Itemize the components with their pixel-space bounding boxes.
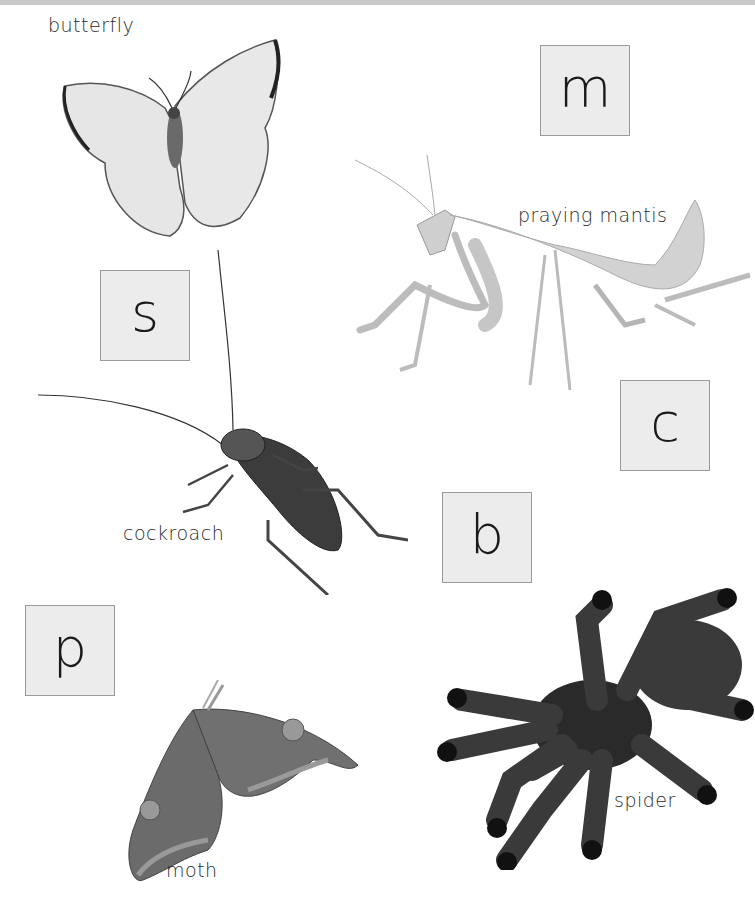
moth-image (108, 680, 363, 890)
top-bar (0, 0, 755, 5)
butterfly-icon (45, 38, 285, 238)
butterfly-label: butterfly (48, 14, 134, 36)
moth-label: moth (166, 859, 218, 881)
letter-c: c (650, 396, 680, 450)
letter-box-c[interactable]: c (620, 380, 710, 471)
letter-m: m (559, 61, 612, 115)
spider-label: spider (614, 789, 676, 811)
letter-p: p (53, 621, 87, 675)
butterfly-image (45, 38, 285, 238)
spider-icon (432, 580, 755, 870)
praying-mantis-label: praying mantis (518, 204, 667, 226)
moth-icon (108, 680, 363, 890)
letter-box-b[interactable]: b (442, 492, 532, 583)
cockroach-label: cockroach (123, 522, 224, 544)
praying-mantis-image (355, 155, 755, 395)
spider-image (432, 580, 755, 870)
letter-box-p[interactable]: p (25, 605, 115, 696)
letter-b: b (470, 508, 504, 562)
letter-box-m[interactable]: m (540, 45, 630, 136)
praying-mantis-icon (355, 155, 755, 395)
